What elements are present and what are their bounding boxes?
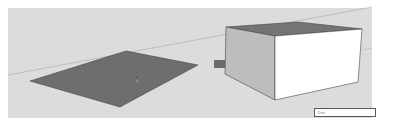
flat-face[interactable] bbox=[30, 51, 198, 107]
box-front-face bbox=[275, 29, 362, 100]
extruded-box[interactable] bbox=[225, 22, 362, 100]
axis-line-right bbox=[362, 48, 372, 50]
measurements-input[interactable]: Dist bbox=[314, 108, 376, 117]
push-pull-cursor-icon bbox=[263, 30, 266, 33]
measurements-box: Dist bbox=[303, 108, 376, 117]
box-side-face bbox=[225, 27, 275, 100]
